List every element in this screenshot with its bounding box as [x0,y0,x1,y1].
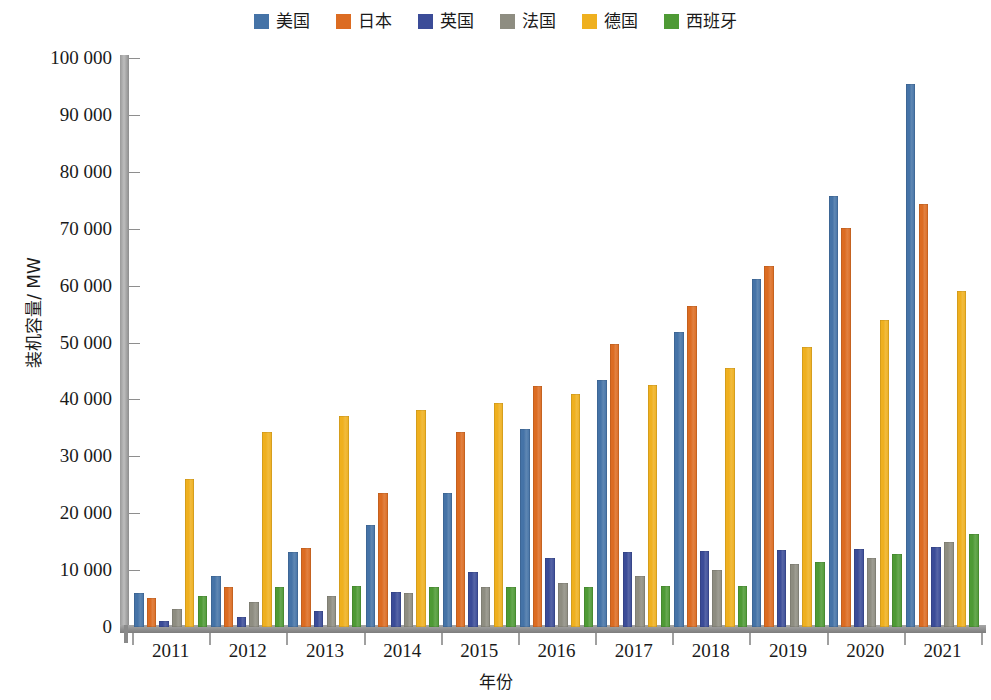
bar[interactable] [802,347,812,627]
bar[interactable] [262,432,272,627]
bar[interactable] [752,279,762,627]
legend-swatch-icon [336,14,351,29]
bar[interactable] [957,291,967,627]
bar[interactable] [558,583,568,627]
bar-fill [404,593,414,627]
bar[interactable] [172,609,182,627]
y-axis-tick-label: 10 000 [4,560,112,579]
bar-fill [429,587,439,627]
bar[interactable] [327,596,337,627]
bar[interactable] [841,228,851,627]
bar[interactable] [700,551,710,627]
bar[interactable] [969,534,979,627]
bar[interactable] [224,587,234,627]
bar[interactable] [712,570,722,627]
y-axis-tick-label: 0 [4,617,112,636]
y-axis-tick-label: 50 000 [4,333,112,352]
legend-label: 美国 [276,13,310,30]
bar[interactable] [494,403,504,627]
bar[interactable] [314,611,324,628]
bar[interactable] [506,587,516,627]
bar[interactable] [249,602,259,627]
bar[interactable] [468,572,478,627]
x-axis-tick-label: 2017 [594,641,674,660]
legend-item[interactable]: 美国 [254,13,310,30]
bar[interactable] [391,592,401,627]
bar[interactable] [931,547,941,627]
bar-fill [456,432,466,627]
bar[interactable] [687,306,697,627]
bar[interactable] [674,332,684,627]
bar[interactable] [815,562,825,627]
bar[interactable] [443,493,453,627]
legend-item[interactable]: 法国 [500,13,556,30]
bar[interactable] [790,564,800,627]
x-axis-tick-mark [286,633,288,645]
bar-fill [648,385,658,627]
bar[interactable] [545,558,555,627]
bar[interactable] [198,596,208,627]
bar[interactable] [533,386,543,627]
x-axis-tick-label: 2020 [825,641,905,660]
bar-fill [520,429,530,627]
legend-item[interactable]: 德国 [582,13,638,30]
bar[interactable] [944,542,954,627]
bar-fill [867,558,877,627]
bar[interactable] [648,385,658,627]
bar[interactable] [584,587,594,627]
bar[interactable] [429,587,439,627]
bar[interactable] [211,576,221,627]
bar[interactable] [610,344,620,627]
bar[interactable] [597,380,607,627]
legend-swatch-icon [254,14,269,29]
bar-fill [841,228,851,627]
bar[interactable] [738,586,748,627]
bar[interactable] [906,84,916,627]
bar-fill [378,493,388,627]
bar[interactable] [919,204,929,627]
bar[interactable] [134,593,144,627]
legend-swatch-icon [664,14,679,29]
bar[interactable] [777,550,787,627]
x-axis-tick-label: 2021 [902,641,982,660]
bar[interactable] [352,586,362,627]
bar[interactable] [339,416,349,627]
bar[interactable] [725,368,735,627]
bar-fill [931,547,941,627]
bar[interactable] [288,552,298,627]
bar[interactable] [237,617,247,627]
bar[interactable] [378,493,388,627]
legend-label: 德国 [604,13,638,30]
bar[interactable] [854,549,864,627]
x-axis-tick-mark [904,633,906,645]
legend-item[interactable]: 西班牙 [664,13,737,30]
bar-fill [391,592,401,627]
bar[interactable] [275,587,285,627]
x-axis-tick-mark [595,633,597,645]
bar[interactable] [867,558,877,627]
bar[interactable] [159,621,169,627]
bar[interactable] [635,576,645,627]
bar[interactable] [185,479,195,627]
bar[interactable] [456,432,466,627]
bar[interactable] [301,548,311,627]
bar[interactable] [416,410,426,627]
bar[interactable] [147,598,157,627]
legend-item[interactable]: 英国 [418,13,474,30]
x-axis-tick-label: 2016 [517,641,597,660]
bar[interactable] [764,266,774,627]
bar[interactable] [661,586,671,627]
bar[interactable] [366,525,376,627]
bar[interactable] [481,587,491,627]
bar[interactable] [520,429,530,627]
bar-fill [301,548,311,627]
bar[interactable] [880,320,890,627]
bar[interactable] [623,552,633,627]
bar[interactable] [571,394,581,627]
legend-item[interactable]: 日本 [336,13,392,30]
bar[interactable] [892,554,902,627]
y-axis-tick-label: 90 000 [4,105,112,124]
bar-fill [661,586,671,627]
bar[interactable] [829,196,839,627]
bar[interactable] [404,593,414,627]
